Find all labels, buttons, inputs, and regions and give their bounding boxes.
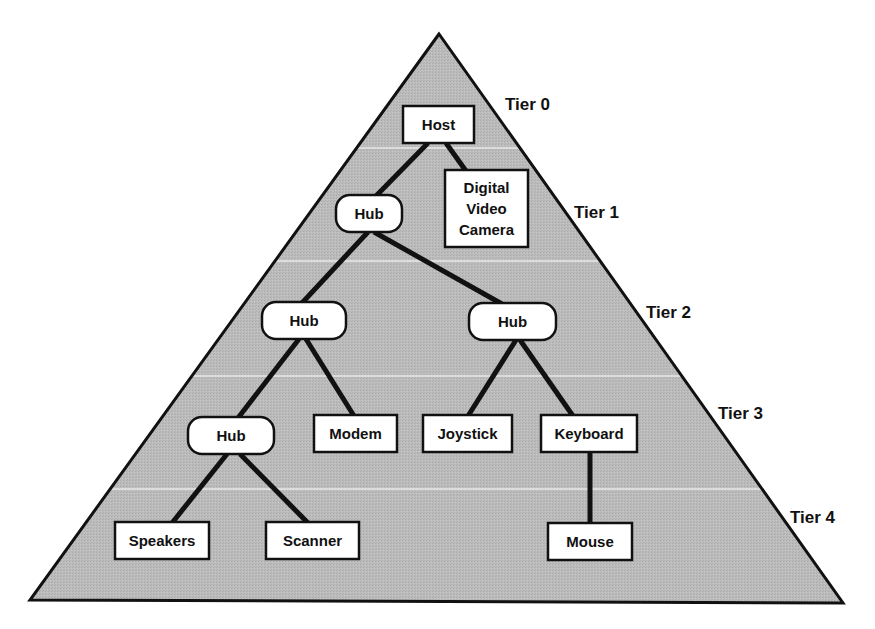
- node-scanner: Scanner: [266, 522, 359, 559]
- node-joystick-label: Joystick: [437, 425, 498, 442]
- node-mouse-label: Mouse: [566, 533, 614, 550]
- node-camera-label-line3: Camera: [459, 221, 515, 238]
- node-speakers: Speakers: [115, 522, 209, 559]
- node-joystick: Joystick: [423, 415, 512, 452]
- node-hub-tier1: Hub: [336, 195, 402, 232]
- node-hub2-right-label: Hub: [498, 313, 527, 330]
- node-keyboard-label: Keyboard: [554, 425, 623, 442]
- usb-topology-diagram: Host Digital Video Camera Hub Hub Hub Hu…: [0, 0, 875, 629]
- tier-label-0: Tier 0: [505, 95, 550, 114]
- node-digital-video-camera: Digital Video Camera: [445, 170, 528, 247]
- node-hub-tier3: Hub: [188, 417, 274, 454]
- node-host-label: Host: [422, 116, 455, 133]
- node-speakers-label: Speakers: [129, 532, 196, 549]
- tier-label-4: Tier 4: [790, 508, 836, 527]
- node-hub2-left-label: Hub: [289, 312, 318, 329]
- tier-label-1: Tier 1: [574, 203, 619, 222]
- node-mouse: Mouse: [548, 523, 632, 560]
- node-camera-label-line2: Video: [466, 200, 507, 217]
- node-hub3-label: Hub: [216, 427, 245, 444]
- node-host: Host: [403, 106, 474, 143]
- node-camera-label-line1: Digital: [464, 179, 510, 196]
- node-hub-tier2-left: Hub: [262, 302, 346, 339]
- node-scanner-label: Scanner: [283, 532, 342, 549]
- tier-label-2: Tier 2: [646, 303, 691, 322]
- node-modem: Modem: [314, 415, 397, 452]
- node-hub-tier2-right: Hub: [469, 303, 556, 340]
- node-hub1-label: Hub: [354, 205, 383, 222]
- node-keyboard: Keyboard: [541, 415, 637, 452]
- tier-label-3: Tier 3: [718, 404, 763, 423]
- node-modem-label: Modem: [329, 425, 382, 442]
